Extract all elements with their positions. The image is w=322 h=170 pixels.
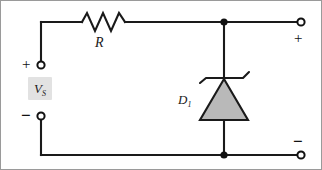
terminal-source-negative[interactable] (37, 112, 44, 119)
diode-label-letter: D (178, 92, 187, 107)
terminal-output-negative[interactable] (297, 151, 304, 158)
junction-dot-top (220, 18, 227, 25)
source-negative-sign: − (21, 107, 31, 124)
diode-label: D1 (178, 93, 191, 106)
source-positive-sign: + (22, 57, 30, 72)
resistor-label: R (95, 36, 104, 50)
diode-label-subscript: 1 (187, 100, 191, 109)
source-label-highlight: VS (28, 77, 52, 100)
source-label-subscript: S (42, 89, 46, 98)
source-voltage-label: VS (34, 81, 46, 96)
junction-dot-bottom (220, 151, 227, 158)
circuit-diagram-figure: R D1 VS + − + − (0, 0, 322, 170)
terminal-output-positive[interactable] (297, 18, 304, 25)
terminal-source-positive[interactable] (37, 61, 44, 68)
output-positive-sign: + (294, 31, 302, 46)
source-label-letter: V (34, 81, 42, 96)
output-negative-sign: − (293, 133, 303, 150)
